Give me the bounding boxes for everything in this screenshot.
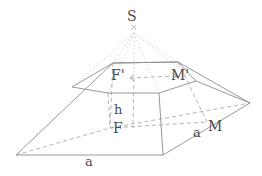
top-face-left-edge <box>72 63 113 87</box>
apex-edge-to-top-mid-left <box>72 33 134 87</box>
lateral-edge-front-right <box>159 93 163 155</box>
label-top-front-F1: F' <box>111 68 125 82</box>
lateral-edges <box>159 81 250 155</box>
apex-marker-icon <box>131 25 136 30</box>
apex-edge-to-top-back-right <box>134 33 178 62</box>
apex-edge-to-top-back-left <box>113 33 134 63</box>
label-apex-S: S <box>127 9 137 23</box>
frustum-figure <box>0 0 262 176</box>
label-edge-right-a: a <box>193 126 201 139</box>
lateral-edge-mid-right <box>196 81 250 103</box>
diagram-canvas: S F' M' h F a M a <box>0 0 262 176</box>
label-top-right-M1: M' <box>171 68 189 82</box>
label-base-right-M: M <box>208 119 222 133</box>
base-back-edge <box>113 62 178 63</box>
hidden-apothem-top <box>130 76 176 78</box>
label-height-h: h <box>114 103 122 116</box>
label-base-front-F: F <box>113 121 123 135</box>
hidden-edge-top-front-left-down <box>108 93 110 128</box>
hidden-height-axis <box>133 78 134 128</box>
label-edge-bottom-a: a <box>85 155 93 168</box>
